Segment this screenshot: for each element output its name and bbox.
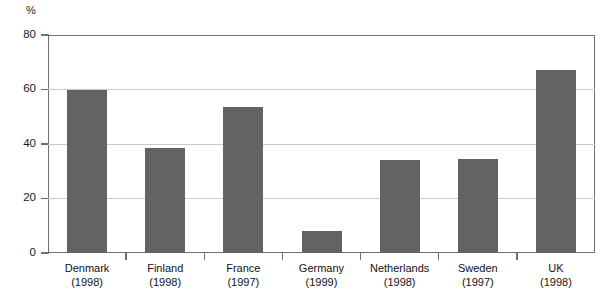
bar-france [223,107,263,253]
category-year: (1998) [48,276,126,290]
x-axis-label-denmark: Denmark(1998) [48,262,126,289]
gridline-60 [48,89,595,90]
x-axis-label-finland: Finland(1998) [126,262,204,289]
y-axis-label-80: 80 [8,28,36,40]
y-axis-label-60: 60 [8,82,36,94]
x-axis-label-netherlands: Netherlands(1998) [361,262,439,289]
x-tick-3 [282,253,283,260]
x-axis-label-sweden: Sweden(1997) [439,262,517,289]
category-name: Finland [126,262,204,276]
x-tick-6 [516,253,517,260]
y-tick-20 [41,198,48,199]
y-axis-unit-label: % [26,4,36,16]
bar-sweden [458,159,498,253]
x-tick-2 [204,253,205,260]
category-name: Germany [282,262,360,276]
bar-uk [536,70,576,253]
category-name: Sweden [439,262,517,276]
category-year: (1997) [439,276,517,290]
category-year: (1998) [517,276,595,290]
bar-chart: % 020406080 Denmark(1998)Finland(1998)Fr… [0,0,608,306]
category-year: (1998) [126,276,204,290]
y-tick-60 [41,89,48,90]
y-tick-80 [41,34,48,35]
gridline-40 [48,144,595,145]
category-name: Denmark [48,262,126,276]
y-axis-label-0: 0 [8,246,36,258]
x-tick-5 [438,253,439,260]
category-name: Netherlands [361,262,439,276]
category-name: France [204,262,282,276]
y-tick-40 [41,143,48,144]
bar-finland [145,148,185,253]
bar-germany [302,231,342,253]
gridline-20 [48,198,595,199]
bar-denmark [67,90,107,254]
x-axis-label-germany: Germany(1999) [282,262,360,289]
category-year: (1997) [204,276,282,290]
y-tick-0 [41,252,48,253]
y-axis-label-20: 20 [8,191,36,203]
category-name: UK [517,262,595,276]
x-tick-1 [125,253,126,260]
x-tick-4 [360,253,361,260]
y-axis-label-40: 40 [8,137,36,149]
bar-netherlands [380,160,420,253]
category-year: (1999) [282,276,360,290]
x-axis-label-france: France(1997) [204,262,282,289]
category-year: (1998) [361,276,439,290]
x-axis-label-uk: UK(1998) [517,262,595,289]
